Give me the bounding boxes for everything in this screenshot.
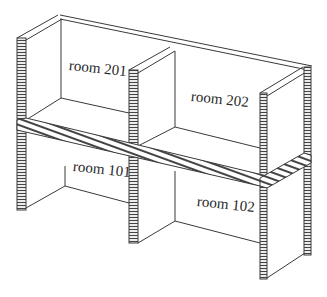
building-drawing [0,0,327,297]
floor-slab-side [260,153,311,188]
building-outline [17,15,312,278]
middle-wall-top [129,47,175,73]
building-section-diagram: room 201 room 202 room 101 room 102 [0,0,327,297]
right-wall-top [260,67,306,96]
left-wall-top [17,15,62,40]
floor-slab-front [17,118,267,186]
